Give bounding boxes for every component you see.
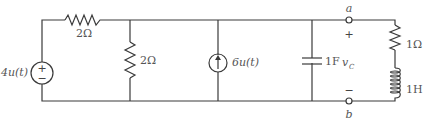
inductor-coil-icon bbox=[391, 68, 401, 100]
resistor-zigzag-icon bbox=[125, 42, 135, 78]
circuit-diagram: + − 4u(t) 2Ω 2Ω 6u(t) 1F a + b − v C bbox=[0, 0, 427, 124]
terminal-node-icon bbox=[346, 17, 352, 23]
capacitor: 1F bbox=[302, 55, 340, 68]
inductor: 1H bbox=[391, 68, 423, 100]
shunt-resistor-label: 2Ω bbox=[140, 54, 156, 67]
arrowhead-icon bbox=[215, 55, 221, 60]
terminal-node-icon bbox=[346, 98, 352, 104]
voltage-source-label: 4u(t) bbox=[0, 66, 28, 79]
load-resistor-label: 1Ω bbox=[406, 38, 422, 51]
voltage-symbol: v bbox=[342, 56, 349, 69]
wire-top-left bbox=[42, 20, 65, 62]
load-resistor: 1Ω bbox=[390, 25, 422, 51]
voltage-source-minus: − bbox=[37, 72, 46, 85]
voltage-subscript: C bbox=[349, 63, 355, 71]
series-resistor: 2Ω bbox=[65, 15, 103, 40]
current-source: 6u(t) bbox=[209, 54, 259, 72]
voltage-source: + − 4u(t) bbox=[0, 62, 53, 85]
inductor-label: 1H bbox=[406, 83, 423, 96]
terminal-b: b − bbox=[344, 84, 353, 121]
terminal-b-sign: − bbox=[344, 84, 353, 97]
capacitor-label: 1F bbox=[325, 55, 340, 68]
resistor-zigzag-icon bbox=[65, 15, 103, 25]
series-resistor-label: 2Ω bbox=[76, 27, 92, 40]
wire-top-right bbox=[352, 20, 395, 25]
wire-bottom bbox=[42, 84, 346, 101]
resistor-zigzag-icon bbox=[390, 25, 400, 50]
terminal-b-label: b bbox=[345, 108, 352, 121]
voltage-label: v C bbox=[342, 56, 355, 71]
terminal-a: a + bbox=[344, 2, 353, 41]
wire-bottom-right bbox=[352, 100, 395, 101]
terminal-a-label: a bbox=[346, 2, 353, 15]
shunt-resistor: 2Ω bbox=[125, 42, 156, 78]
terminal-a-sign: + bbox=[344, 28, 353, 41]
current-source-label: 6u(t) bbox=[232, 56, 259, 69]
